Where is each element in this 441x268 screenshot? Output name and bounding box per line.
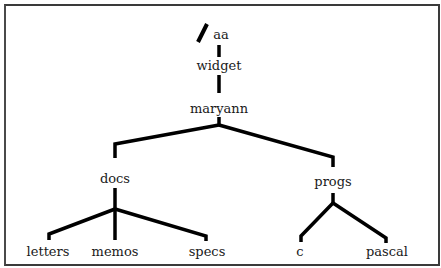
root-slash-icon: [198, 24, 207, 42]
node-widget: widget: [197, 59, 242, 72]
edge-docs-specs: [115, 209, 206, 241]
edge-maryann-progs: [219, 125, 333, 167]
edge-progs-c: [301, 203, 333, 242]
node-progs: progs: [314, 175, 351, 188]
edge-docs-letters: [49, 209, 115, 240]
node-pascal: pascal: [366, 245, 408, 258]
node-maryann: maryann: [190, 102, 248, 115]
node-c: c: [296, 245, 303, 258]
edge-maryann-docs: [115, 125, 219, 158]
node-letters: letters: [27, 245, 70, 258]
node-specs: specs: [189, 245, 226, 258]
edge-progs-pascal: [333, 203, 386, 243]
node-memos: memos: [92, 245, 139, 258]
node-docs: docs: [100, 172, 130, 185]
node-aa: aa: [213, 28, 229, 41]
